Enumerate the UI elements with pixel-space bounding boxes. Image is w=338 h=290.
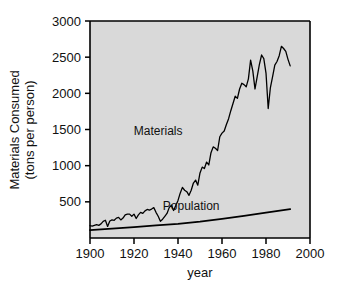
y-axis: 50010001500200025003000 [52, 14, 90, 210]
materials-population-line-chart: 50010001500200025003000 1900192019401960… [0, 0, 338, 290]
x-axis-tick-label: 1940 [164, 246, 193, 261]
x-axis-tick-label: 1920 [120, 246, 149, 261]
y-axis-title-line1: Materials Consumed [7, 70, 22, 189]
x-axis-tick-label: 1960 [208, 246, 237, 261]
x-axis: 190019201940196019802000 [76, 238, 325, 261]
y-axis-tick-label: 3000 [52, 14, 81, 29]
y-axis-title-line2: (tons per person) [22, 81, 37, 180]
y-axis-tick-label: 500 [59, 194, 81, 209]
y-axis-tick-label: 2500 [52, 50, 81, 65]
y-axis-tick-label: 2000 [52, 86, 81, 101]
series-annotation-materials: Materials [134, 124, 183, 138]
chart-figure: 50010001500200025003000 1900192019401960… [0, 0, 338, 290]
series-annotation-population: Population [163, 199, 220, 213]
x-axis-title: year [187, 265, 213, 280]
x-axis-tick-label: 2000 [296, 246, 325, 261]
y-axis-tick-label: 1500 [52, 122, 81, 137]
x-axis-tick-label: 1980 [252, 246, 281, 261]
x-axis-tick-label: 1900 [76, 246, 105, 261]
y-axis-tick-label: 1000 [52, 158, 81, 173]
